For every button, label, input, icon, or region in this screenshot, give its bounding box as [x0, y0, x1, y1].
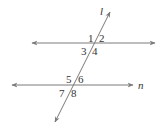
- angle-4-label: 4: [92, 45, 98, 57]
- line-n-label: n: [138, 79, 144, 91]
- transversal-line-l: [55, 12, 110, 122]
- angle-5-label: 5: [66, 73, 72, 85]
- angle-8-label: 8: [71, 87, 77, 99]
- angle-1-label: 1: [88, 32, 94, 44]
- diagram-canvas: l n 1 2 3 4 5 6 7 8: [0, 0, 164, 132]
- angle-7-label: 7: [59, 87, 65, 99]
- angle-3-label: 3: [81, 45, 87, 57]
- angle-6-label: 6: [78, 73, 84, 85]
- transversal-label: l: [100, 5, 103, 17]
- angle-2-label: 2: [99, 32, 105, 44]
